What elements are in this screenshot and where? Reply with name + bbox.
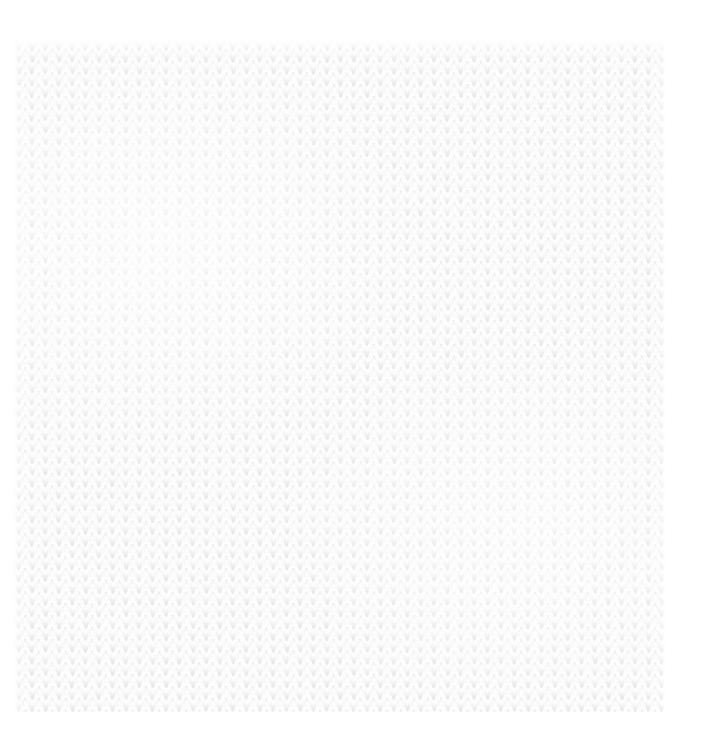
knitted-fabric-swatch	[12, 38, 665, 712]
stitch-rows	[12, 38, 665, 712]
texture-canvas	[0, 0, 707, 749]
stitch-field	[12, 38, 665, 712]
